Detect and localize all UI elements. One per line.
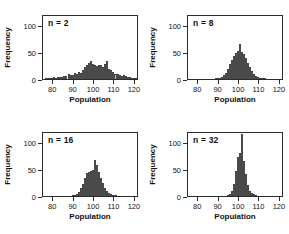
y-axis-tick-label: 50 [173, 48, 181, 57]
x-axis-tick-mark [197, 197, 198, 201]
x-axis-tick-mark [258, 197, 259, 201]
y-axis-title-label: Frequency [3, 27, 12, 67]
histogram-panel: Frequency050100n = 168090100110120Popula… [0, 117, 145, 234]
x-axis-title: Population [187, 212, 283, 221]
x-axis-tick-label: 100 [232, 202, 245, 211]
x-axis-tick-mark [93, 197, 94, 201]
x-axis-tick-mark [73, 197, 74, 201]
y-axis-tick-label: 100 [23, 21, 36, 30]
x-axis-tick-label: 110 [108, 202, 120, 211]
y-axis-ticks: 050100 [161, 132, 187, 197]
x-axis-tick-label: 90 [68, 85, 76, 94]
x-axis-tick-mark [113, 80, 114, 84]
y-axis-title: Frequency [1, 15, 13, 80]
x-axis-tick-label: 110 [253, 202, 265, 211]
histogram-panel: Frequency050100n = 28090100110120Populat… [0, 0, 145, 117]
x-axis-tick-mark [134, 197, 135, 201]
y-axis-ticks: 050100 [16, 15, 42, 80]
x-axis-tick-label: 80 [193, 85, 201, 94]
y-axis-title: Frequency [146, 132, 158, 197]
x-axis-title: Population [42, 212, 138, 221]
x-axis-tick-mark [258, 80, 259, 84]
x-axis-tick-mark [279, 197, 280, 201]
y-axis-tick-label: 100 [168, 21, 181, 30]
x-axis-tick-label: 100 [232, 85, 245, 94]
x-axis-tick-label: 120 [273, 202, 286, 211]
y-axis-title-label: Frequency [3, 144, 12, 184]
y-axis-tick-label: 100 [168, 138, 181, 147]
y-axis-title-label: Frequency [148, 144, 157, 184]
histogram-bar [137, 78, 138, 79]
x-axis-tick-mark [238, 80, 239, 84]
y-axis-tick-label: 0 [32, 193, 36, 202]
x-axis-tick-mark [52, 197, 53, 201]
x-axis-tick-label: 80 [48, 202, 56, 211]
x-axis-tick-label: 80 [193, 202, 201, 211]
x-axis-tick-label: 110 [253, 85, 265, 94]
x-axis-tick-mark [113, 197, 114, 201]
histogram-panel: Frequency050100n = 88090100110120Populat… [145, 0, 289, 117]
histogram-bar [264, 78, 266, 79]
x-axis-tick-label: 90 [213, 85, 221, 94]
y-axis-ticks: 050100 [16, 132, 42, 197]
panel-sample-size-label: n = 8 [193, 18, 214, 28]
x-axis-tick-label: 100 [87, 202, 100, 211]
x-axis-tick-mark [197, 80, 198, 84]
histogram-grid-figure: Frequency050100n = 28090100110120Populat… [0, 0, 289, 234]
x-axis-tick-mark [52, 80, 53, 84]
y-axis-tick-label: 50 [28, 165, 36, 174]
x-axis-title: Population [42, 95, 138, 104]
y-axis-tick-label: 0 [32, 76, 36, 85]
y-axis-tick-label: 0 [177, 193, 181, 202]
x-axis-tick-mark [279, 80, 280, 84]
histogram-bar [255, 195, 257, 196]
x-axis-tick-mark [73, 80, 74, 84]
histogram-bar [114, 195, 116, 196]
x-axis-tick-label: 120 [128, 202, 141, 211]
x-axis-tick-label: 100 [87, 85, 100, 94]
x-axis-tick-mark [93, 80, 94, 84]
panel-sample-size-label: n = 16 [48, 135, 74, 145]
y-axis-title-label: Frequency [148, 27, 157, 67]
y-axis-tick-label: 0 [177, 76, 181, 85]
y-axis-title: Frequency [1, 132, 13, 197]
y-axis-tick-label: 50 [28, 48, 36, 57]
x-axis-tick-label: 80 [48, 85, 56, 94]
x-axis-tick-mark [134, 80, 135, 84]
x-axis-title: Population [187, 95, 283, 104]
y-axis-tick-label: 50 [173, 165, 181, 174]
x-axis-tick-label: 90 [68, 202, 76, 211]
x-axis-tick-label: 110 [108, 85, 120, 94]
panel-sample-size-label: n = 32 [193, 135, 219, 145]
x-axis-tick-label: 90 [213, 202, 221, 211]
y-axis-title: Frequency [146, 15, 158, 80]
x-axis-tick-label: 120 [273, 85, 286, 94]
x-axis-tick-mark [238, 197, 239, 201]
x-axis-tick-mark [218, 197, 219, 201]
panel-sample-size-label: n = 2 [48, 18, 69, 28]
x-axis-tick-mark [218, 80, 219, 84]
y-axis-tick-label: 100 [23, 138, 36, 147]
y-axis-ticks: 050100 [161, 15, 187, 80]
histogram-panel: Frequency050100n = 328090100110120Popula… [145, 117, 289, 234]
x-axis-tick-label: 120 [128, 85, 141, 94]
